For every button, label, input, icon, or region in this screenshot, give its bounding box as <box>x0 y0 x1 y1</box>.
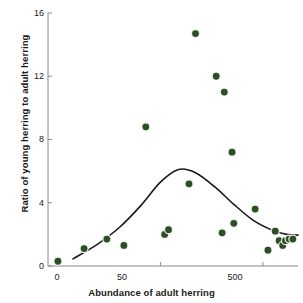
data-point <box>252 206 259 213</box>
data-point <box>221 89 228 96</box>
data-point <box>213 73 220 80</box>
data-point <box>192 30 199 37</box>
data-point <box>120 242 127 249</box>
data-point <box>186 180 193 187</box>
data-point <box>229 149 236 156</box>
axis-lines <box>48 13 298 266</box>
data-point <box>142 123 149 130</box>
data-point <box>81 245 88 252</box>
data-point <box>272 228 279 235</box>
data-point <box>55 258 62 265</box>
data-point <box>165 226 172 233</box>
data-point <box>103 236 110 243</box>
data-points <box>53 29 297 266</box>
data-point <box>230 220 237 227</box>
data-point <box>219 229 226 236</box>
data-point <box>265 247 272 254</box>
tick-marks <box>48 13 263 266</box>
chart-container: Ratio of young herring to adult herring … <box>0 0 303 303</box>
data-point <box>289 236 296 243</box>
plot-area <box>0 0 303 303</box>
